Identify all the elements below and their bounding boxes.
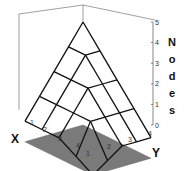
z-tick-label: 3 <box>155 60 159 67</box>
z-tick-label: 1 <box>155 101 159 108</box>
x-tick-label: 1 <box>30 119 34 126</box>
y-tick-label: 1 <box>86 150 90 157</box>
z-tick-label: 2 <box>155 80 159 87</box>
z-axis-title-letter: s <box>169 104 175 116</box>
z-axis: 012345 <box>151 19 159 129</box>
y-axis-title: Y <box>152 146 160 160</box>
y-tick-label: 3 <box>128 136 132 143</box>
z-axis-title-letter: e <box>169 87 175 99</box>
z-axis-title-letter: o <box>169 53 176 65</box>
surface-3d-chart: 012345 1234 1234 X Y Nodes <box>0 0 190 171</box>
z-axis-title-letter: d <box>169 70 176 82</box>
z-axis-title-letter: N <box>168 36 176 48</box>
z-axis-title: Nodes <box>168 36 176 116</box>
y-tick-label: 4 <box>148 130 152 137</box>
z-tick-label: 4 <box>155 39 159 46</box>
x-tick-label: 2 <box>43 126 47 133</box>
x-tick-label: 3 <box>58 135 62 142</box>
y-tick-label: 2 <box>107 143 111 150</box>
z-tick-label: 0 <box>155 122 159 129</box>
x-tick-label: 4 <box>76 142 80 149</box>
z-tick-label: 5 <box>155 19 159 26</box>
x-axis-title: X <box>11 132 19 146</box>
